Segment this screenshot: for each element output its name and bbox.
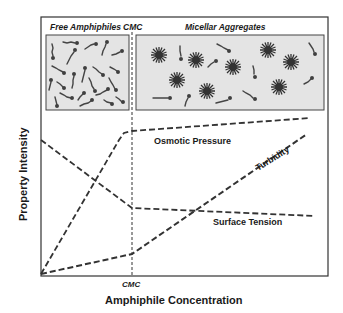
free-amphiphiles-title: Free Amphiphiles (50, 22, 121, 32)
surface-tension-label: Surface Tension (213, 217, 282, 227)
cmc-top-label: CMC (123, 22, 143, 32)
chart-figure: Free Amphiphiles CMC Micellar Aggregates (0, 0, 343, 313)
x-tick-cmc: CMC (122, 280, 140, 289)
turbidity-label: Turbidity (254, 144, 291, 173)
osmotic-pressure-label: Osmotic Pressure (154, 136, 231, 146)
y-axis-label: Property Intensity (17, 127, 29, 221)
x-axis-label: Amphiphile Concentration (105, 294, 243, 306)
micellar-aggregates-title: Micellar Aggregates (185, 22, 266, 32)
